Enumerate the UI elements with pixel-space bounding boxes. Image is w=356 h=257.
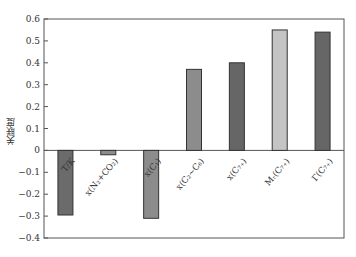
bar (315, 32, 330, 150)
plot-area (0, 0, 356, 257)
y-axis-label: 关联度 (3, 118, 16, 145)
y-tick-label: −0.4 (10, 233, 40, 243)
y-tick-label: 0.4 (10, 58, 40, 68)
y-tick-label: −0.1 (10, 167, 40, 177)
y-tick-label: 0.5 (10, 36, 40, 46)
y-tick-label: 0 (10, 145, 40, 155)
bar (187, 69, 202, 150)
bar-chart: 0.60.50.40.30.20.10−0.1−0.2−0.3−0.4T/Kx(… (0, 0, 356, 257)
bar (101, 150, 116, 154)
y-tick-label: −0.3 (10, 211, 40, 221)
y-tick-label: 0.2 (10, 102, 40, 112)
y-tick-label: 0.3 (10, 80, 40, 90)
y-tick-label: −0.2 (10, 189, 40, 199)
bar (272, 30, 287, 150)
y-tick-label: 0.6 (10, 14, 40, 24)
bar (229, 63, 244, 151)
